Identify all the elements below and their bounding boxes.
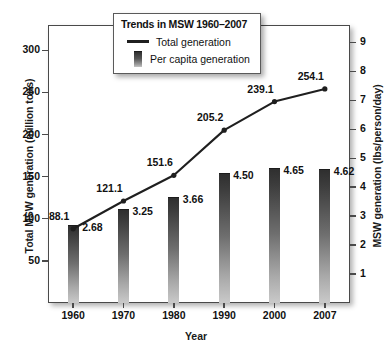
legend-item-total-generation: Total generation	[127, 34, 254, 49]
line-value-label: 151.6	[137, 156, 183, 168]
legend-item-per-capita-generation: Per capita generation	[127, 50, 254, 68]
legend-label-per-capita-generation: Per capita generation	[150, 53, 250, 65]
bar-swatch-icon	[134, 51, 142, 67]
line-marker	[171, 173, 176, 178]
legend: Trends in MSW 1960–2007 Total generation…	[113, 13, 261, 74]
line-swatch-icon	[127, 40, 149, 43]
line-marker	[322, 86, 327, 91]
line-value-label: 254.1	[288, 70, 334, 82]
line-marker	[222, 128, 227, 133]
line-marker	[121, 198, 126, 203]
line-marker	[71, 226, 76, 231]
legend-label-total-generation: Total generation	[156, 36, 231, 48]
line-value-label: 239.1	[238, 83, 284, 95]
line-value-label: 205.2	[187, 111, 233, 123]
chart-container: Total MSW generation (million tons) MSW …	[0, 0, 392, 349]
line-value-label: 121.1	[87, 182, 133, 194]
chart-title: Trends in MSW 1960–2007	[121, 18, 254, 30]
line-value-label: 88.1	[36, 210, 82, 222]
line-marker	[272, 99, 277, 104]
